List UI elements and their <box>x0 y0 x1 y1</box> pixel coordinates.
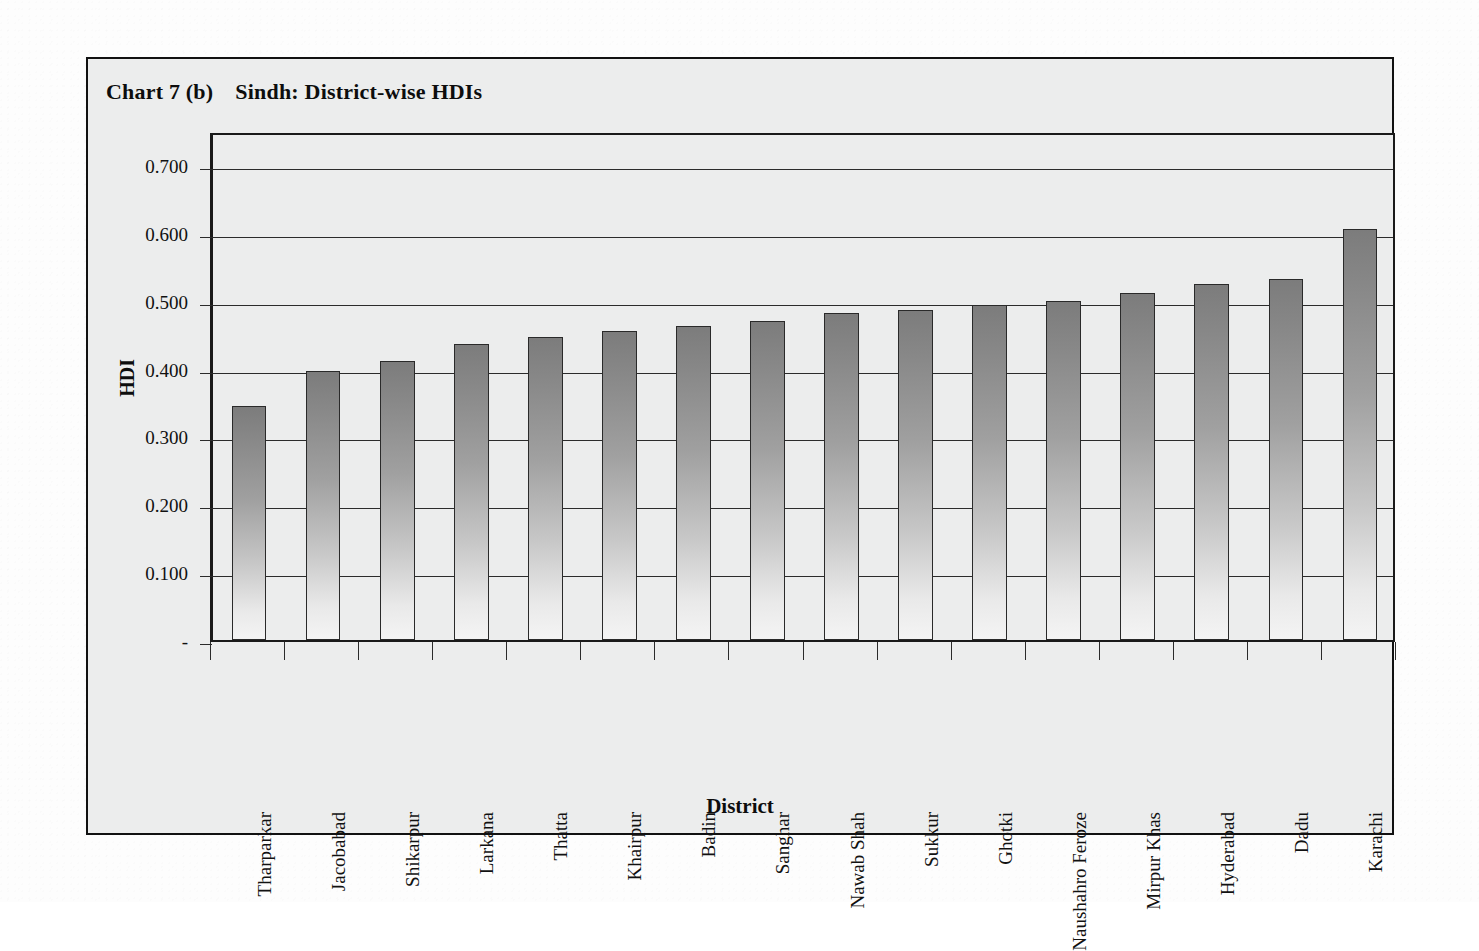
y-axis-tick <box>200 508 212 509</box>
y-axis-tick <box>200 169 212 170</box>
x-axis-separator <box>210 642 211 660</box>
bar <box>306 371 341 640</box>
x-axis-separator <box>951 642 952 660</box>
x-axis-separator <box>803 642 804 660</box>
x-axis-tick-label: Khairpur <box>624 812 646 881</box>
x-axis-separator <box>358 642 359 660</box>
x-axis-tick-label: Tharparkar <box>254 812 276 896</box>
x-axis-separator <box>728 642 729 660</box>
y-axis-tick <box>200 576 212 577</box>
y-axis-tick-label: 0.600 <box>88 224 188 246</box>
x-axis-tick-label: Hyderabad <box>1217 812 1239 895</box>
chart-title-subtitle: Sindh: District-wise HDIs <box>235 79 482 104</box>
y-axis-tick-label: 0.500 <box>88 292 188 314</box>
bar <box>454 344 489 640</box>
x-axis-separator <box>1247 642 1248 660</box>
x-axis-separator <box>654 642 655 660</box>
x-axis-separator <box>506 642 507 660</box>
y-axis-tick <box>200 440 212 441</box>
x-axis-tick-label: Nawab Shah <box>847 812 869 909</box>
x-axis-separator <box>432 642 433 660</box>
x-axis-title: District <box>88 794 1392 819</box>
x-axis-tick-label: Sukkur <box>921 812 943 867</box>
x-axis-category-separators <box>210 642 1395 660</box>
bar <box>898 310 933 640</box>
x-axis-separator <box>1173 642 1174 660</box>
y-axis-tick-label: 0.200 <box>88 495 188 517</box>
x-axis-separator <box>284 642 285 660</box>
bar <box>380 361 415 640</box>
y-axis-tick-label: 0.100 <box>88 563 188 585</box>
x-axis-tick-label: Sanghar <box>772 812 794 874</box>
y-axis-tick-label: - <box>88 631 188 653</box>
plot-area <box>210 133 1395 642</box>
x-axis-tick-label: Mirpur Khas <box>1143 812 1165 910</box>
x-axis-tick-label: Larkana <box>476 812 498 874</box>
y-axis-tick-label: 0.400 <box>88 360 188 382</box>
gridline <box>212 169 1393 170</box>
chart-container: Chart 7 (b)Sindh: District-wise HDIs HDI… <box>86 57 1394 835</box>
bar <box>1046 301 1081 640</box>
bar <box>528 337 563 640</box>
x-axis-separator <box>1395 642 1396 660</box>
y-axis-tick <box>200 305 212 306</box>
bar <box>232 406 267 640</box>
bar <box>1269 279 1304 640</box>
x-axis-tick-label: Karachi <box>1365 812 1387 872</box>
chart-title-number: Chart 7 (b) <box>106 79 213 104</box>
x-axis-separator <box>1321 642 1322 660</box>
y-axis-tick-label: 0.300 <box>88 427 188 449</box>
x-axis-tick-label: Shikarpur <box>402 812 424 887</box>
x-axis-tick-label: Thatta <box>550 812 572 861</box>
bar <box>1343 229 1378 640</box>
y-axis-tick <box>200 373 212 374</box>
bar <box>602 331 637 640</box>
gridline <box>212 237 1393 238</box>
x-axis-separator <box>1025 642 1026 660</box>
x-axis-tick-label: Jacobabad <box>328 812 350 891</box>
x-axis-separator <box>877 642 878 660</box>
bar <box>750 321 785 640</box>
y-axis-tick-label: 0.700 <box>88 156 188 178</box>
x-axis-separator <box>580 642 581 660</box>
chart-title: Chart 7 (b)Sindh: District-wise HDIs <box>106 79 482 105</box>
y-axis-tick <box>200 237 212 238</box>
bar <box>972 305 1007 640</box>
bar <box>1194 284 1229 640</box>
x-axis-separator <box>1099 642 1100 660</box>
bar <box>676 326 711 640</box>
x-axis-tick-label: Ghotki <box>995 812 1017 865</box>
bar <box>824 313 859 640</box>
y-axis-line <box>211 133 213 642</box>
x-axis-tick-label: Naushahro Feroze <box>1069 812 1091 951</box>
bar <box>1120 293 1155 640</box>
